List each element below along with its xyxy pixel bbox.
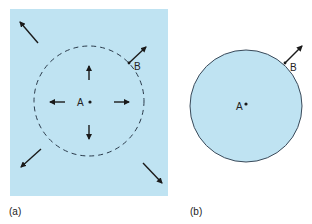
point-a-label: A	[236, 101, 243, 112]
point-b-label: B	[290, 62, 297, 73]
point-a-dot	[88, 100, 91, 103]
arrow-from-b	[285, 46, 302, 63]
solid-circle	[190, 50, 302, 162]
point-b-dot	[284, 62, 287, 65]
panel-a-caption: (a)	[9, 206, 21, 217]
point-b-label: B	[134, 61, 141, 72]
point-a-dot	[244, 102, 247, 105]
point-a-label: A	[77, 97, 84, 108]
panel-b-caption: (b)	[190, 206, 202, 217]
panel-a: A B (a)	[9, 9, 168, 217]
figure: A B (a) B A (b)	[0, 0, 312, 224]
point-b-dot	[128, 62, 131, 65]
panel-b: B A (b)	[190, 46, 302, 217]
